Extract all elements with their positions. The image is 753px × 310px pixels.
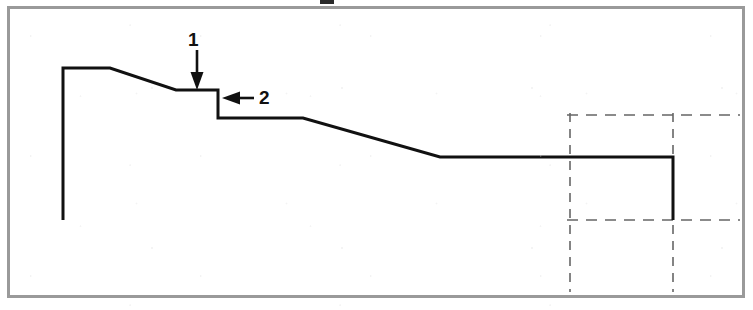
callout-1-arrow xyxy=(191,50,204,90)
technical-drawing-canvas xyxy=(0,0,753,310)
callout-2-arrow-head xyxy=(222,92,240,105)
callout-label-1: 1 xyxy=(188,30,199,49)
callout-label-2: 2 xyxy=(259,88,270,107)
profile-outline-path xyxy=(63,68,673,220)
callout-1-arrow-head xyxy=(191,72,204,90)
figure-root: 1 2 xyxy=(0,0,753,310)
construction-lines-group xyxy=(567,113,740,292)
callout-2-arrow xyxy=(222,92,254,105)
